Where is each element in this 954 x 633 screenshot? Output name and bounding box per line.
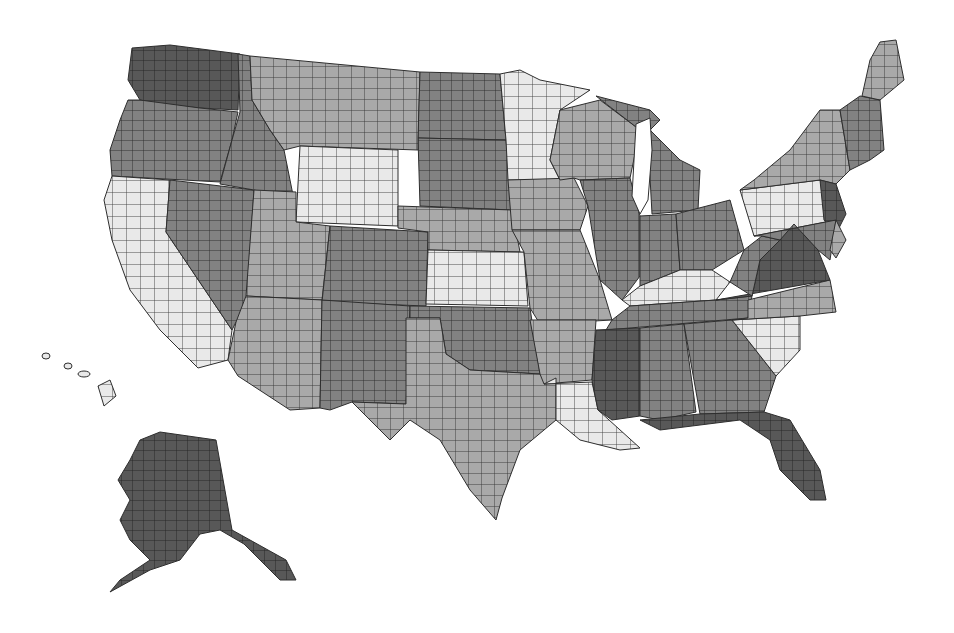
state-nm [320,300,410,410]
state-co [322,226,428,306]
state-nd [418,72,506,140]
state-or [110,100,238,182]
state-hi [98,380,116,406]
state-ak [110,432,296,592]
state-ar [530,320,596,384]
us-county-choropleth-map [0,0,954,633]
state-sd [418,138,512,210]
state-fl [640,412,826,500]
state-ny [740,110,850,190]
state-ks [426,250,528,306]
state-mt [250,56,420,150]
state-wy [296,146,398,226]
state-ms [592,328,640,420]
state-me [862,40,904,100]
states-layer [98,40,904,592]
state-ia [508,178,588,230]
state-az [228,296,322,410]
hawaii-islands [42,353,90,377]
